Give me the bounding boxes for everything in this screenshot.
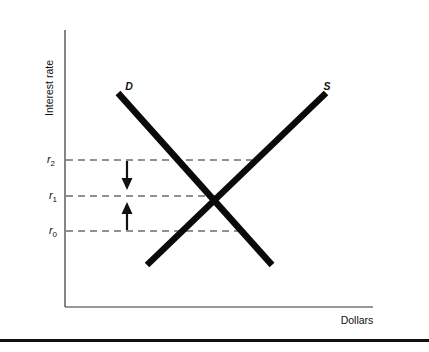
r0-label: r0 [49,224,58,239]
bottom-border-rule [0,339,429,342]
y-axis-label: Interest rate [43,60,55,116]
up-arrow-icon [122,202,133,230]
demand-label: D [125,80,133,92]
interest-rate-diagram: Interest rate Dollars r2 r1 r0 D S [0,0,429,352]
r1-label: r1 [49,189,58,204]
demand-curve [118,93,272,265]
down-arrow-icon [122,161,133,190]
supply-label: S [323,80,330,92]
r2-label: r2 [47,153,56,168]
x-axis-label: Dollars [341,314,374,326]
supply-curve [147,93,326,265]
